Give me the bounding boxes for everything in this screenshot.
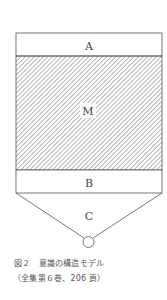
label-a: A xyxy=(84,40,94,53)
label-b: B xyxy=(85,177,93,190)
figure-caption-title: 図２ 意識の構造モデル xyxy=(14,257,104,268)
funnel-c-right xyxy=(93,193,162,238)
origin-circle xyxy=(83,237,94,248)
figure-caption-source: （全集第６巻、206 頁） xyxy=(13,272,105,283)
label-m: M xyxy=(82,105,93,118)
label-c: C xyxy=(85,210,93,223)
funnel-c xyxy=(16,193,84,238)
consciousness-structure-diagram: A M B C xyxy=(0,0,167,300)
